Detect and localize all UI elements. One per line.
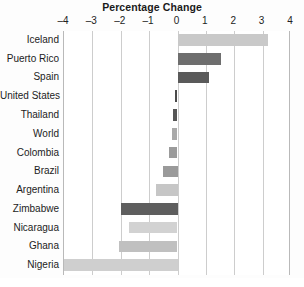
category-label-nicaragua: Nicaragua bbox=[0, 222, 59, 233]
x-tick-label-neg4: –4 bbox=[57, 15, 68, 26]
plot-area bbox=[63, 31, 290, 275]
x-tick-label-2: 2 bbox=[230, 15, 236, 26]
category-label-spain: Spain bbox=[0, 71, 59, 82]
bar-row bbox=[64, 144, 289, 163]
bar-zimbabwe bbox=[121, 203, 178, 215]
bar-brazil bbox=[163, 166, 177, 178]
bar-world bbox=[172, 128, 178, 140]
category-label-nigeria: Nigeria bbox=[0, 259, 59, 270]
bar-row bbox=[64, 87, 289, 106]
bar-argentina bbox=[156, 184, 177, 196]
x-tick-label-3: 3 bbox=[259, 15, 265, 26]
bar-row bbox=[64, 50, 289, 69]
bar-row bbox=[64, 256, 289, 275]
x-tick-label-4: 4 bbox=[287, 15, 293, 26]
category-label-argentina: Argentina bbox=[0, 184, 59, 195]
bottom-edge-strip bbox=[0, 278, 304, 287]
category-label-iceland: Iceland bbox=[0, 34, 59, 45]
bar-puerto-rico bbox=[178, 53, 222, 65]
bar-rows bbox=[64, 31, 289, 275]
y-axis-category-labels: IcelandPuerto RicoSpainUnited StatesThai… bbox=[0, 31, 59, 275]
bar-row bbox=[64, 125, 289, 144]
category-label-thailand: Thailand bbox=[0, 109, 59, 120]
category-label-brazil: Brazil bbox=[0, 165, 59, 176]
bar-ghana bbox=[119, 241, 177, 253]
x-tick-label-neg3: –3 bbox=[86, 15, 97, 26]
bar-thailand bbox=[173, 109, 177, 121]
bar-united-states bbox=[175, 90, 178, 102]
bar-row bbox=[64, 31, 289, 50]
bar-row bbox=[64, 69, 289, 88]
bar-iceland bbox=[178, 34, 269, 46]
x-tick-label-1: 1 bbox=[202, 15, 208, 26]
category-label-colombia: Colombia bbox=[0, 147, 59, 158]
bar-nicaragua bbox=[129, 222, 177, 234]
bar-row bbox=[64, 181, 289, 200]
chart-title: Percentage Change bbox=[0, 1, 304, 13]
bar-nigeria bbox=[64, 259, 178, 271]
category-label-ghana: Ghana bbox=[0, 240, 59, 251]
percentage-change-bar-chart: Percentage Change –4–3–2–101234 IcelandP… bbox=[0, 0, 304, 287]
bar-colombia bbox=[169, 147, 178, 159]
x-tick-label-neg1: –1 bbox=[143, 15, 154, 26]
x-tick-label-0: 0 bbox=[174, 15, 180, 26]
bar-spain bbox=[178, 72, 209, 84]
category-label-zimbabwe: Zimbabwe bbox=[0, 203, 59, 214]
x-tick-label-neg2: –2 bbox=[114, 15, 125, 26]
x-axis-tick-labels: –4–3–2–101234 bbox=[0, 15, 304, 28]
bar-row bbox=[64, 219, 289, 238]
bar-row bbox=[64, 200, 289, 219]
category-label-world: World bbox=[0, 128, 59, 139]
category-label-united-states: United States bbox=[0, 90, 59, 101]
bar-row bbox=[64, 237, 289, 256]
bar-row bbox=[64, 106, 289, 125]
bar-row bbox=[64, 162, 289, 181]
category-label-puerto-rico: Puerto Rico bbox=[0, 53, 59, 64]
